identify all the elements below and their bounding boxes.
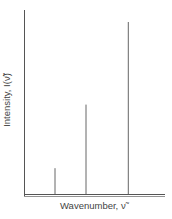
chart-canvas <box>0 0 172 219</box>
spectral-lines <box>55 22 128 194</box>
spectrum-chart: Intensity, I(ν̃) Wavenumber, ν̃ <box>0 0 172 219</box>
x-axis-label: Wavenumber, ν̃ <box>60 200 126 211</box>
y-axis-label: Intensity, I(ν̃) <box>6 100 16 110</box>
y-axis-label-text: Intensity, I(ν̃) <box>1 73 12 127</box>
